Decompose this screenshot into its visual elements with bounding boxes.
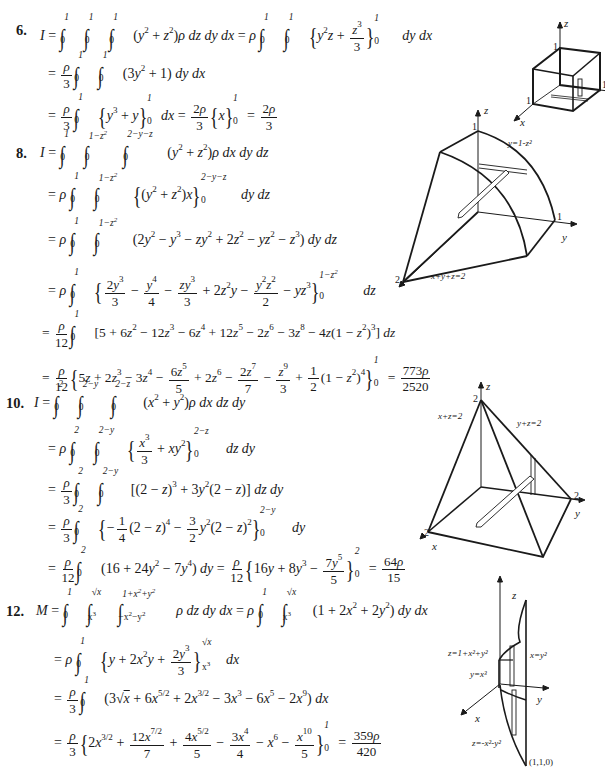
- equation-line: = ρ12∫20(16 + 24y2 − 7y4) dy = ρ12{16y +…: [48, 553, 407, 586]
- axis-label-x: x: [474, 712, 480, 724]
- equation-line: = ρ ∫10{2y33 − y44 − zy33 + 2z2y − y2z22…: [48, 275, 376, 308]
- equation-line: = ρ ∫10∫1−z20(2y2 − y3 − zy2 + 2z2 − yz2…: [48, 230, 337, 254]
- axis-label-y: y: [561, 231, 567, 243]
- figure-region-12: z z=1+x²+y² x=y² y=x³ y x z=-x²-y² (1,1,…: [420, 570, 595, 768]
- equation-line: = ρ ∫10{y + 2x2y + 2y33}√xx3dx: [54, 644, 239, 677]
- problem-number: 6.: [16, 22, 27, 39]
- axis-label-x: x: [431, 540, 437, 552]
- svg-text:2: 2: [473, 393, 478, 404]
- equation-line: = ρ ∫10∫1−z20{(y2 + z2)x}2−y−z0dy dz: [48, 183, 270, 209]
- svg-text:x+y+z=2: x+y+z=2: [430, 271, 466, 281]
- svg-text:y=1-z²: y=1-z²: [507, 138, 532, 148]
- svg-text:2: 2: [395, 274, 400, 285]
- svg-text:1: 1: [472, 121, 477, 132]
- equation-line: = ρ3∫10∫10(3y2 + 1) dy dx: [48, 60, 205, 90]
- axis-label-y: y: [574, 507, 580, 519]
- equation-line: I = ∫10∫10∫10(y2 + z2)ρ dz dy dx = ρ ∫10…: [40, 20, 432, 53]
- svg-text:1: 1: [553, 41, 558, 52]
- figure-pyramid-10: z 2 x+z=2 y+z=2 2 y 2 x: [395, 375, 595, 565]
- axis-label-z: z: [483, 105, 489, 116]
- equation-line: = ρ ∫20∫2−y0{x33 + xy2}2−z0dz dy: [48, 433, 255, 466]
- equation-line: I = ∫10∫1−z20∫2−y−z0(y2 + z2)ρ dx dy dz: [40, 143, 268, 167]
- equation-line: = ρ3∫20{−14(2 − z)4 − 32y2(2 − z)2}2−y0d…: [48, 514, 305, 544]
- equation-line: = ρ12∫10[5 + 6z2 − 12z3 − 6z4 + 12z5 − 2…: [42, 319, 395, 349]
- axis-label-x: x: [404, 285, 410, 290]
- equation-line: = ρ12{5z + 2z3 − 3z4 − 6z55 + 2z6 − 2z77…: [42, 362, 432, 395]
- axis-label-z: z: [485, 380, 491, 392]
- svg-text:z=1+x²+y²: z=1+x²+y²: [447, 648, 488, 658]
- equation-line: = ρ3∫20∫2−y0[(2 − z)3 + 3y2(2 − z)] dz d…: [48, 476, 283, 506]
- result-problem-12: 359ρ420: [352, 729, 382, 759]
- equation-line: M = ∫10∫√xx3∫1+x2+y2−x2−y2ρ dz dy dx = ρ…: [36, 601, 428, 625]
- axis-label-z: z: [511, 589, 517, 601]
- svg-text:x=y²: x=y²: [529, 650, 547, 660]
- axis-label-y: y: [536, 693, 542, 705]
- svg-text:(1,1,0): (1,1,0): [529, 757, 553, 767]
- svg-text:x+z=2: x+z=2: [437, 411, 463, 421]
- problem-number: 12.: [6, 603, 24, 620]
- problem-number: 8.: [16, 145, 27, 162]
- svg-text:y+z=2: y+z=2: [516, 418, 542, 428]
- svg-text:1: 1: [557, 211, 562, 222]
- figure-region-8: z 1 y=1-z² 1 y 2 x x+y+z=2: [395, 105, 595, 290]
- equation-line: = ρ3{2x3/2 + 12x7/27 + 4x5/25 − 3x44 − x…: [54, 727, 383, 760]
- svg-text:z=-x²-y²: z=-x²-y²: [471, 738, 501, 748]
- svg-text:y=x³: y=x³: [469, 669, 487, 679]
- problem-number: 10.: [6, 395, 24, 412]
- svg-text:2: 2: [574, 490, 579, 501]
- axis-label-z: z: [563, 17, 569, 29]
- svg-text:2: 2: [424, 527, 429, 538]
- equation-line: I = ∫20∫2−y0∫2−z0(x2 + y2)ρ dx dz dy: [34, 393, 245, 417]
- equation-line: = ρ3∫10{y3 + y}10dx = 2ρ3{x}10= 2ρ3: [48, 102, 279, 132]
- equation-line: = ρ3∫10(3√x + 6x5/2 + 2x3/2 − 3x3 − 6x5 …: [54, 685, 328, 715]
